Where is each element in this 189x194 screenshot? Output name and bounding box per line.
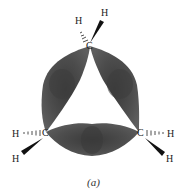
wedge-bond-left	[21, 138, 43, 155]
hydrogen-right-lower: H	[166, 153, 173, 164]
hydrogen-top-left: H	[75, 15, 82, 26]
carbon-top: C	[86, 40, 93, 51]
wedge-bond-top	[90, 20, 104, 43]
hashed-bond-top	[80, 32, 88, 42]
hydrogen-top-right: H	[101, 7, 108, 18]
figure-caption: (a)	[87, 176, 100, 189]
hashed-bond-left	[24, 130, 40, 136]
cyclopropane-diagram: C H H C H H C H H (a)	[0, 0, 189, 194]
bent-bond-bottom	[46, 123, 139, 156]
bent-bond-left	[42, 46, 90, 132]
carbon-right: C	[137, 127, 144, 138]
hashed-bond-right	[147, 130, 163, 136]
hydrogen-left-upper: H	[12, 128, 19, 139]
carbon-left: C	[42, 127, 49, 138]
bent-bond-right	[90, 46, 139, 132]
hydrogen-left-lower: H	[12, 153, 19, 164]
hydrogen-right-upper: H	[167, 128, 174, 139]
wedge-bond-right	[145, 138, 165, 156]
